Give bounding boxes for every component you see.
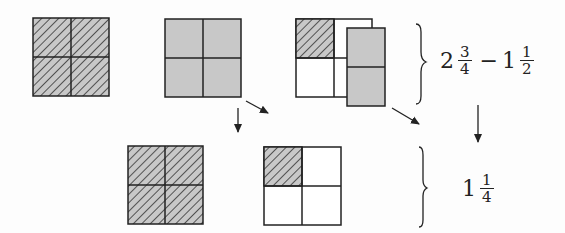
fraction-1: 3 4: [458, 44, 472, 77]
top-gray-square: [165, 19, 241, 97]
bottom-brace: [419, 147, 427, 227]
whole-1: 2: [440, 48, 454, 73]
top-brace: [416, 24, 426, 104]
arrow-diag-middle: [246, 101, 268, 113]
top-whole-hatched-square: [33, 18, 109, 96]
fraction-2: 1 2: [520, 44, 534, 77]
bottom-whole-hatched-square: [128, 146, 203, 224]
result-whole: 1: [462, 176, 476, 201]
arrow-diag-right: [392, 108, 419, 124]
top-expression: 2 3 4 − 1 1 2: [440, 44, 538, 77]
top-combined-square: [296, 19, 385, 106]
result-fraction: 1 4: [480, 172, 494, 205]
bottom-result-square: [264, 147, 341, 225]
minus-operator: −: [480, 48, 498, 73]
whole-2: 1: [502, 48, 516, 73]
bottom-expression: 1 1 4: [462, 172, 498, 205]
